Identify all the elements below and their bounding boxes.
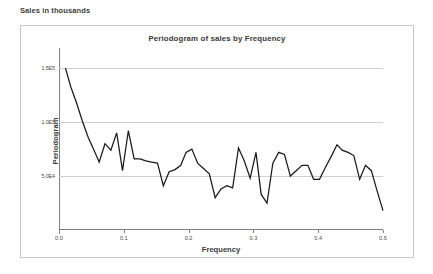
x-tick-mark bbox=[124, 230, 125, 233]
chart-title: Periodogram of sales by Frequency bbox=[21, 34, 413, 43]
plot-area: 1.5E51.0E55.0E4 0.00.10.20.30.40.5 bbox=[59, 52, 383, 230]
y-tick-label: 1.0E5 bbox=[41, 119, 55, 125]
series-periodogram bbox=[59, 52, 383, 230]
x-tick-label: 0.1 bbox=[120, 235, 128, 241]
chart-frame: Periodogram of sales by Frequency Period… bbox=[20, 25, 414, 258]
page-caption: Sales in thousands bbox=[20, 6, 90, 15]
x-tick-label: 0.5 bbox=[379, 235, 387, 241]
x-tick-label: 0.2 bbox=[185, 235, 193, 241]
x-tick-mark bbox=[383, 230, 384, 233]
x-tick-label: 0.0 bbox=[55, 235, 63, 241]
x-tick-mark bbox=[189, 230, 190, 233]
y-tick-label: 5.0E4 bbox=[41, 173, 55, 179]
x-tick-label: 0.4 bbox=[314, 235, 322, 241]
x-tick-label: 0.3 bbox=[250, 235, 258, 241]
x-tick-mark bbox=[253, 230, 254, 233]
y-axis-title-wrap: Periodogram bbox=[31, 52, 45, 230]
y-tick-label: 1.5E5 bbox=[41, 65, 55, 71]
x-tick-mark bbox=[59, 230, 60, 233]
x-axis-title: Frequency bbox=[59, 245, 383, 254]
x-tick-mark bbox=[318, 230, 319, 233]
